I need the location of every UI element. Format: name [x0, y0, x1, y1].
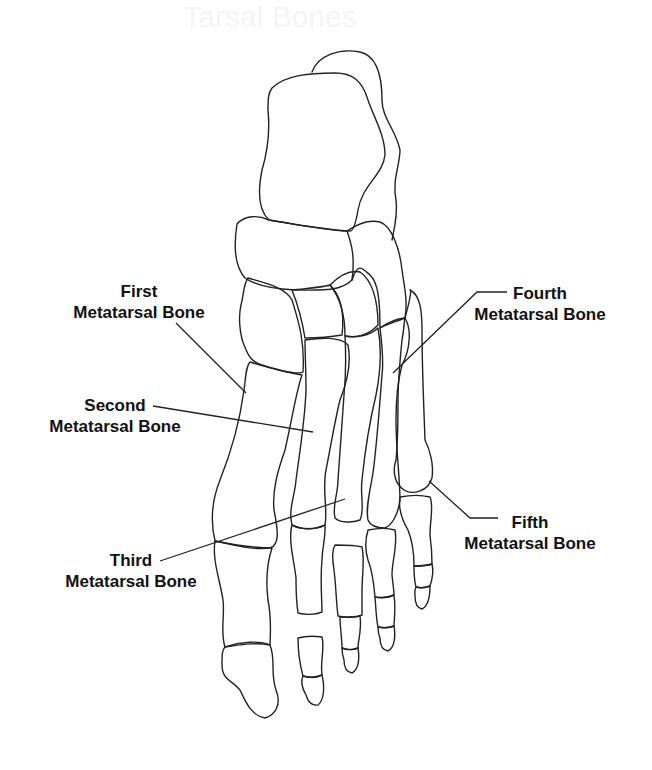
third-proximal-phalanx-bone — [333, 545, 364, 617]
fifth-middle-phalanx-bone — [414, 564, 433, 588]
label-third-metatarsal: Third Metatarsal Bone — [56, 550, 206, 592]
first-metatarsal-bone — [212, 362, 302, 548]
label-third-line1: Third — [56, 550, 206, 571]
calcaneus-bone — [260, 73, 385, 231]
label-fourth-line2: Metatarsal Bone — [465, 304, 615, 325]
foot-bone-diagram — [0, 0, 652, 770]
third-metatarsal-bone — [334, 328, 380, 522]
label-second-line2: Metatarsal Bone — [40, 416, 190, 437]
label-second-line1: Second — [40, 395, 190, 416]
label-fifth-metatarsal: Fifth Metatarsal Bone — [455, 512, 605, 554]
first-distal-phalanx-bone — [222, 642, 278, 718]
third-distal-phalanx-bone — [342, 648, 359, 673]
cuboid-bone — [347, 221, 406, 328]
fifth-proximal-phalanx-bone — [399, 496, 432, 567]
fifth-distal-phalanx-bone — [415, 586, 430, 609]
label-fourth-line1: Fourth — [465, 283, 615, 304]
label-fifth-line2: Metatarsal Bone — [455, 533, 605, 554]
label-second-metatarsal: Second Metatarsal Bone — [40, 395, 190, 437]
medial-cuneiform-bone — [240, 278, 304, 373]
fourth-middle-phalanx-bone — [375, 595, 395, 628]
first-proximal-phalanx-bone — [214, 541, 272, 647]
second-proximal-phalanx-bone — [291, 525, 326, 614]
fourth-distal-phalanx-bone — [378, 626, 395, 651]
label-first-line1: First — [64, 281, 214, 302]
label-first-line2: Metatarsal Bone — [64, 302, 214, 323]
first-leader-line — [176, 323, 246, 393]
label-first-metatarsal: First Metatarsal Bone — [64, 281, 214, 323]
second-distal-phalanx-bone — [302, 675, 324, 705]
second-middle-phalanx-bone — [298, 636, 323, 677]
lateral-cuneiform-bone — [330, 272, 378, 337]
third-middle-phalanx-bone — [340, 616, 361, 650]
label-fifth-line1: Fifth — [455, 512, 605, 533]
label-fourth-metatarsal: Fourth Metatarsal Bone — [465, 283, 615, 325]
fourth-proximal-phalanx-bone — [366, 529, 396, 598]
label-third-line2: Metatarsal Bone — [56, 571, 206, 592]
